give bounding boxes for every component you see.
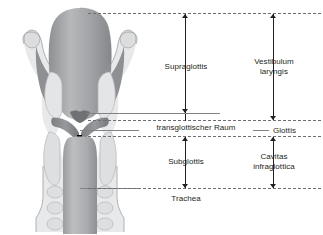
label-trachea: Trachea (146, 194, 226, 204)
boundary-line-glottis-upper (88, 120, 321, 121)
figure-root: Supraglottis Vestibulum laryngis transgl… (0, 0, 323, 234)
label-glottis: Glottis (271, 126, 315, 136)
label-vestibulum-laryngis-line2: laryngis (260, 67, 288, 76)
boundary-line-glottis-lower (88, 136, 321, 137)
boundary-line-trachea (88, 188, 321, 189)
measure-glottis-left-tick (181, 114, 190, 121)
label-supraglottis: Supraglottis (146, 62, 226, 72)
label-cavitas-infraglottica: Cavitas infraglottica (239, 152, 309, 171)
boundary-line-glottis-upper-solid (86, 113, 220, 114)
trachea-lumen (63, 137, 97, 235)
label-cavitas-infraglottica-line1: Cavitas (260, 152, 287, 161)
label-cavitas-infraglottica-line2: infraglottica (253, 162, 295, 171)
label-subglottis: Subglottis (146, 157, 226, 167)
boundary-line-top (88, 13, 321, 14)
label-vestibulum-laryngis-line1: Vestibulum (254, 57, 294, 66)
label-vestibulum-laryngis: Vestibulum laryngis (239, 57, 309, 76)
label-transglottischer-raum: transglottischer Raum (139, 123, 253, 133)
larynx-illustration (0, 0, 160, 234)
